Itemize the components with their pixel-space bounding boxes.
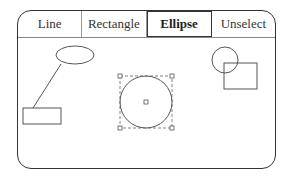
center-handle[interactable] <box>144 100 148 104</box>
selected-circle-shape[interactable] <box>118 74 174 130</box>
resize-handle-bottom-left[interactable] <box>118 126 122 130</box>
line-shape[interactable] <box>33 64 61 108</box>
small-circle-shape[interactable] <box>212 47 238 73</box>
drawing-canvas[interactable] <box>0 0 289 179</box>
overlap-rectangle-shape[interactable] <box>224 63 257 89</box>
resize-handle-top-left[interactable] <box>118 74 122 78</box>
resize-handle-top-right[interactable] <box>170 74 174 78</box>
rectangle-shape[interactable] <box>23 108 61 124</box>
resize-handle-bottom-right[interactable] <box>170 126 174 130</box>
ellipse-shape[interactable] <box>56 46 94 64</box>
